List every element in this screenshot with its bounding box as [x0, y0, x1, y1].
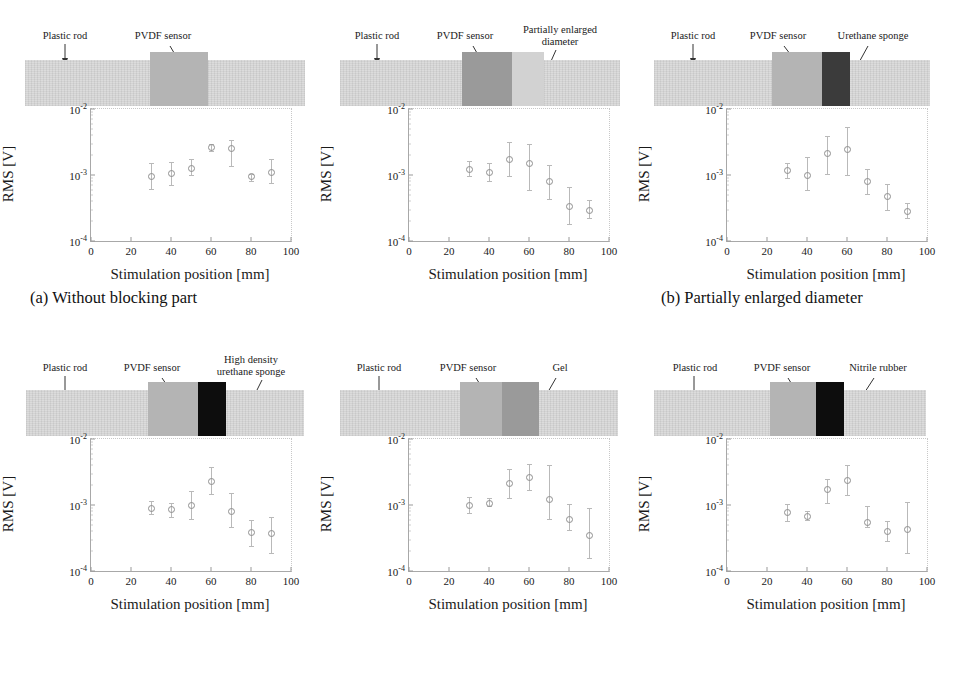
- y-tick-mark: [91, 505, 95, 506]
- label-plastic-rod-b: Plastic rod: [334, 30, 420, 42]
- data-point: [268, 169, 275, 176]
- y-tick-label: 10-4: [69, 564, 87, 578]
- y-tick-mark: [409, 109, 413, 110]
- y-tick-label: 10-2: [387, 432, 405, 446]
- error-bar-cap: [905, 203, 910, 204]
- error-bar-cap: [825, 479, 830, 480]
- x-tick-mark: [529, 237, 530, 241]
- data-point: [844, 477, 851, 484]
- error-bar-cap: [785, 521, 790, 522]
- data-point: [546, 178, 553, 185]
- x-tick-label: 60: [206, 575, 217, 587]
- error-bar-cap: [785, 163, 790, 164]
- y-minor-tick: [409, 128, 411, 129]
- y-minor-tick: [727, 155, 729, 156]
- error-bar-cap: [149, 514, 154, 515]
- data-point: [804, 172, 811, 179]
- plot-d: RMS [V] Stimulation position [mm] 10-210…: [0, 430, 318, 630]
- error-bar-cap: [249, 520, 254, 521]
- data-point: [864, 178, 871, 185]
- y-minor-tick: [91, 143, 93, 144]
- error-bar-cap: [269, 517, 274, 518]
- y-minor-tick: [91, 458, 93, 459]
- error-bar-cap: [905, 502, 910, 503]
- data-point: [546, 496, 553, 503]
- plot-area-f: 10-210-310-4020406080100: [726, 438, 928, 572]
- data-point: [566, 203, 573, 210]
- error-bar-cap: [587, 218, 592, 219]
- error-bar-cap: [149, 163, 154, 164]
- plot-area-b: 10-210-310-4020406080100: [408, 108, 610, 242]
- error-bar-cap: [189, 175, 194, 176]
- data-point: [864, 519, 871, 526]
- y-minor-tick: [409, 155, 411, 156]
- data-point: [844, 146, 851, 153]
- label-gel-e: Gel: [530, 362, 590, 374]
- x-tick-label: 20: [762, 575, 773, 587]
- error-bar-cap: [865, 194, 870, 195]
- y-minor-tick: [91, 465, 93, 466]
- error-bar-cap: [587, 200, 592, 201]
- y-tick-mark: [409, 241, 413, 242]
- y-minor-tick: [727, 115, 729, 116]
- x-tick-mark: [609, 567, 610, 571]
- y-tick-mark: [409, 505, 413, 506]
- data-point: [188, 165, 195, 172]
- y-tick-label: 10-3: [387, 498, 405, 512]
- y-minor-tick: [91, 185, 93, 186]
- y-tick-label: 10-3: [705, 168, 723, 182]
- y-tick-mark: [727, 505, 731, 506]
- y-minor-tick: [727, 445, 729, 446]
- x-axis-label-c: Stimulation position [mm]: [746, 266, 905, 283]
- error-bar-cap: [269, 553, 274, 554]
- x-tick-mark: [131, 237, 132, 241]
- y-minor-tick: [91, 551, 93, 552]
- x-axis-label-a: Stimulation position [mm]: [110, 266, 269, 283]
- data-point: [486, 500, 493, 507]
- data-point: [824, 150, 831, 157]
- x-tick-mark: [449, 567, 450, 571]
- data-point: [466, 166, 473, 173]
- y-tick-label: 10-4: [705, 564, 723, 578]
- data-point: [904, 208, 911, 215]
- data-point: [506, 480, 513, 487]
- x-tick-mark: [291, 567, 292, 571]
- label-pvdf-sensor-e: PVDF sensor: [426, 362, 510, 374]
- error-bar-cap: [865, 169, 870, 170]
- y-tick-mark: [727, 175, 731, 176]
- x-tick-label: 40: [484, 245, 495, 257]
- y-tick-label: 10-3: [69, 498, 87, 512]
- panel-c: Plastic rod PVDF sensor Urethane sponge: [636, 0, 954, 300]
- block-pvdf-sensor-e: [460, 382, 502, 436]
- x-tick-mark: [91, 567, 92, 571]
- x-tick-mark: [847, 567, 848, 571]
- x-axis-label-e: Stimulation position [mm]: [428, 596, 587, 613]
- x-tick-mark: [251, 237, 252, 241]
- y-tick-label: 10-3: [705, 498, 723, 512]
- block-pvdf-sensor-a: [150, 52, 208, 106]
- error-bar-cap: [527, 490, 532, 491]
- y-minor-tick: [91, 201, 93, 202]
- y-minor-tick: [409, 201, 411, 202]
- error-bar: [549, 465, 550, 518]
- data-point: [506, 156, 513, 163]
- x-tick-label: 40: [802, 575, 813, 587]
- label-plastic-rod-c: Plastic rod: [650, 30, 736, 42]
- panel-f: Plastic rod PVDF sensor Nitrile rubber: [636, 330, 954, 630]
- panel-a: Plastic rod PVDF sensor RMS [V] Stimulat…: [0, 0, 318, 300]
- y-tick-label: 10-2: [387, 102, 405, 116]
- x-tick-label: 0: [724, 575, 730, 587]
- label-plastic-rod-a: Plastic rod: [20, 30, 110, 42]
- y-minor-tick: [409, 185, 411, 186]
- error-bar-cap: [527, 144, 532, 145]
- error-bar-cap: [269, 159, 274, 160]
- error-bar-cap: [507, 498, 512, 499]
- error-bar: [529, 144, 530, 189]
- data-point: [188, 502, 195, 509]
- y-minor-tick: [727, 201, 729, 202]
- data-point: [904, 526, 911, 533]
- error-bar-cap: [209, 467, 214, 468]
- y-minor-tick: [727, 473, 729, 474]
- y-tick-label: 10-4: [705, 234, 723, 248]
- y-minor-tick: [409, 485, 411, 486]
